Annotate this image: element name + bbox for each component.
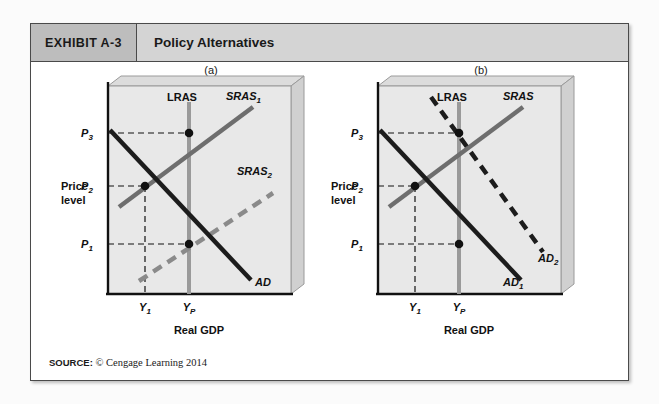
source-text: © Cengage Learning 2014 [95, 357, 207, 368]
label-ad: AD [254, 276, 271, 288]
exhibit-card: EXHIBIT A-3 Policy Alternatives (a) [30, 23, 629, 381]
tick-p3: P3 [81, 127, 93, 142]
exhibit-header: EXHIBIT A-3 Policy Alternatives [31, 24, 628, 62]
equilibrium-dot-upper [185, 129, 194, 138]
box-right-side [561, 76, 574, 294]
source-note: SOURCE: © Cengage Learning 2014 [49, 357, 207, 368]
x-axis-label: Real GDP [174, 324, 224, 336]
box-top-bevel [108, 76, 304, 86]
panel-b: (b) LRAS [331, 62, 631, 346]
y-axis-label-line2: level [331, 194, 355, 206]
plot-face [108, 86, 291, 294]
x-axis-label: Real GDP [444, 324, 494, 336]
equilibrium-dot-lower [185, 240, 194, 249]
label-lras: LRAS [167, 91, 197, 103]
source-label: SOURCE: [49, 357, 93, 368]
y-axis-label-line1: Price [331, 180, 358, 192]
tick-y1: Y1 [139, 301, 151, 316]
y-axis-label-line2: level [61, 194, 85, 206]
plot-face [378, 86, 561, 294]
box-right-side [291, 76, 304, 294]
tick-p1: P1 [81, 238, 93, 253]
tick-yp: YP [453, 301, 466, 316]
equilibrium-dot-lower [455, 240, 464, 249]
tick-y1: Y1 [409, 301, 421, 316]
y-axis-label-line1: Price [61, 180, 88, 192]
label-lras: LRAS [437, 91, 467, 103]
panel-a: (a) [61, 62, 361, 346]
tick-p3: P3 [351, 127, 363, 142]
equilibrium-dot-upper [455, 129, 464, 138]
tick-yp: YP [183, 301, 196, 316]
exhibit-title: Policy Alternatives [137, 24, 628, 61]
equilibrium-dot-initial [411, 182, 420, 191]
label-sras: SRAS [503, 90, 534, 102]
tick-p1: P1 [351, 238, 363, 253]
exhibit-figure: (a) [31, 62, 628, 346]
equilibrium-dot-initial [141, 182, 150, 191]
exhibit-number: EXHIBIT A-3 [31, 24, 137, 61]
box-top-bevel [378, 76, 574, 86]
